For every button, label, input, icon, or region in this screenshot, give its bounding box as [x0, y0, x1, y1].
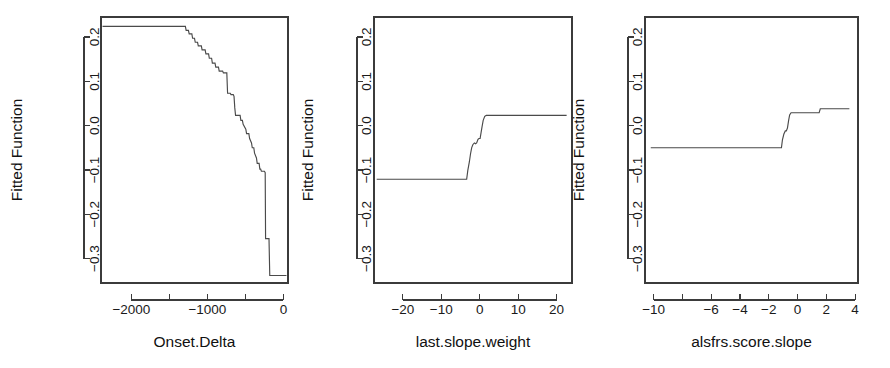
y-tick-label: 0.1: [360, 72, 375, 91]
x-axis-title: last.slope.weight: [416, 333, 531, 350]
fitted-function-line: [651, 109, 850, 148]
x-tick-label: 4: [851, 302, 859, 317]
x-tick-label: 10: [511, 302, 526, 317]
y-tick-label: 0.2: [631, 28, 646, 47]
y-tick-label: −0.3: [88, 245, 103, 272]
chart-panel-onset-delta: 0.20.10.0−0.1−0.2−0.3−2000−10000Onset.De…: [0, 0, 300, 368]
y-tick-label: 0.1: [88, 72, 103, 91]
x-tick-label: −6: [703, 302, 718, 317]
plot-area: 0.20.10.0−0.1−0.2−0.3−10−6−4−2024alsfrs.…: [566, 0, 890, 368]
y-tick-label: −0.2: [88, 201, 103, 228]
plot-area: 0.20.10.0−0.1−0.2−0.3−2000−10000Onset.De…: [0, 0, 300, 368]
x-tick-label: −1000: [188, 302, 226, 317]
figure-root: 0.20.10.0−0.1−0.2−0.3−2000−10000Onset.De…: [0, 0, 890, 368]
plot-area: 0.20.10.0−0.1−0.2−0.3−20−1001020last.slo…: [295, 0, 595, 368]
chart-panel-alsfrs-score-slope: 0.20.10.0−0.1−0.2−0.3−10−6−4−2024alsfrs.…: [566, 0, 890, 368]
x-tick-label: 0: [280, 302, 288, 317]
y-tick-label: −0.3: [360, 245, 375, 272]
x-tick-label: −10: [430, 302, 453, 317]
chart-panel-last-slope-weight: 0.20.10.0−0.1−0.2−0.3−20−1001020last.slo…: [295, 0, 595, 368]
fitted-function-line: [377, 115, 567, 179]
y-tick-label: −0.2: [360, 201, 375, 228]
y-axis-title: Fitted Function: [8, 99, 25, 202]
y-tick-label: −0.1: [88, 157, 103, 184]
x-tick-label: −2: [761, 302, 776, 317]
y-tick-label: −0.3: [631, 245, 646, 272]
y-tick-label: 0.0: [631, 116, 646, 135]
x-tick-label: −10: [642, 302, 665, 317]
x-tick-label: −4: [732, 302, 748, 317]
y-tick-label: 0.0: [360, 116, 375, 135]
plot-frame: [645, 17, 858, 283]
plot-frame: [374, 17, 572, 283]
x-axis-title: Onset.Delta: [154, 333, 236, 350]
x-axis-title: alsfrs.score.slope: [691, 333, 812, 350]
y-tick-label: 0.2: [360, 28, 375, 47]
y-axis-title: Fitted Function: [570, 99, 587, 202]
y-tick-label: −0.1: [360, 157, 375, 184]
x-tick-label: 0: [794, 302, 802, 317]
y-tick-label: 0.2: [88, 28, 103, 47]
x-tick-label: 0: [476, 302, 484, 317]
y-tick-label: 0.0: [88, 116, 103, 135]
y-tick-label: −0.1: [631, 157, 646, 184]
y-tick-label: −0.2: [631, 201, 646, 228]
y-axis-title: Fitted Function: [299, 99, 316, 202]
x-tick-label: −2000: [112, 302, 150, 317]
plot-frame: [101, 17, 288, 283]
y-tick-label: 0.1: [631, 72, 646, 91]
fitted-function-line: [103, 26, 287, 275]
x-tick-label: 2: [823, 302, 831, 317]
x-tick-label: 20: [549, 302, 564, 317]
x-tick-label: −20: [391, 302, 414, 317]
